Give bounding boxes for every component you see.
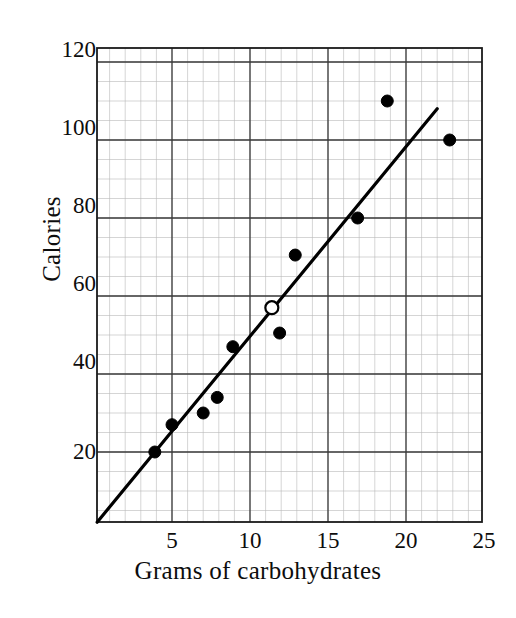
- plot-area: [0, 0, 516, 618]
- data-point: [444, 134, 456, 146]
- highlighted-data-point: [265, 301, 278, 314]
- data-point: [352, 212, 364, 224]
- data-point: [381, 95, 393, 107]
- data-point: [274, 327, 286, 339]
- data-point: [211, 391, 223, 403]
- scatter-plot-figure: Calories 120 100 80 60 40 20 5 10 15 20 …: [0, 0, 516, 618]
- data-point: [149, 446, 161, 458]
- data-point: [197, 407, 209, 419]
- data-point: [166, 419, 178, 431]
- data-point: [289, 249, 301, 261]
- data-point: [227, 341, 239, 353]
